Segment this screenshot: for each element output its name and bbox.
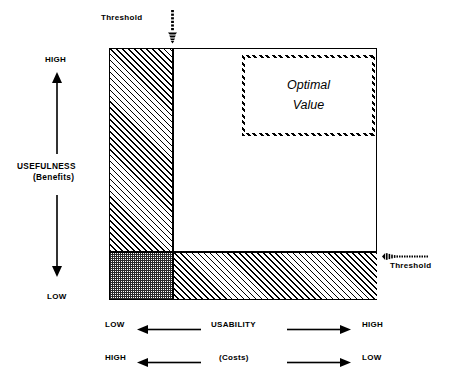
usefulness-threshold-divider [110,251,377,253]
costs-axis-left-label: HIGH [105,353,126,362]
vertical-axis-up-arrow-icon [51,72,63,158]
region-low-usefulness-hatch [172,251,377,299]
usability-axis-left-label: LOW [105,320,125,329]
optimal-value-line-1: Optimal [242,75,375,95]
region-low-low-checker [110,251,172,299]
optimal-value-region: Optimal Value [242,55,375,136]
usability-axis-name: USABILITY [211,320,256,329]
costs-axis-name: (Costs) [219,353,249,362]
vertical-axis-high-label: HIGH [45,55,66,64]
vertical-axis-down-arrow-icon [51,195,63,281]
diagram-canvas: Threshold [0,0,466,372]
usability-axis-left-arrow-icon [137,320,201,338]
vertical-axis-low-label: LOW [47,292,67,301]
optimal-value-label: Optimal Value [242,75,375,115]
costs-axis-left-arrow-icon [137,353,201,371]
vertical-axis-name: USEFULNESS [17,161,76,171]
threshold-right-label: Threshold [390,261,431,270]
costs-axis-right-label: LOW [362,353,382,362]
threshold-top-label: Threshold [101,13,142,22]
optimal-value-line-2: Value [242,95,375,115]
usability-axis-right-arrow-icon [287,320,351,338]
threshold-top-arrow-icon [168,10,177,46]
vertical-axis-subname: (Benefits) [33,172,74,182]
costs-axis-right-arrow-icon [287,353,351,371]
usability-axis-right-label: HIGH [362,320,383,329]
matrix-frame: Optimal Value [109,48,377,300]
region-low-usability-hatch [110,49,172,251]
threshold-right-arrow-icon [382,247,434,256]
usability-threshold-divider [172,49,174,299]
